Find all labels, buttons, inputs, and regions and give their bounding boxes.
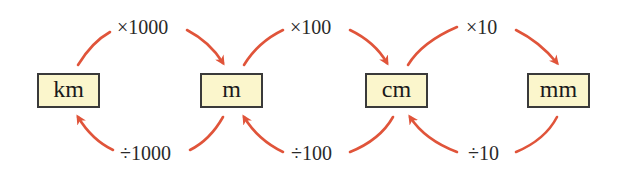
unit-label-km: km [53,77,84,101]
arrow-cm-to-m-head [244,117,283,152]
arrow-km-to-m [78,32,110,65]
arrow-km-to-m-head [187,30,223,63]
unit-conversion-diagram: km m cm mm ×1000 ×100 ×10 ÷1000 ÷100 ÷10 [0,0,624,180]
unit-label-mm: mm [540,77,577,101]
arrow-mm-to-cm [516,117,557,152]
unit-box-km: km [37,73,100,108]
arrow-cm-to-mm-head [516,30,557,63]
multiply-label-km-m: ×1000 [117,17,168,37]
arrow-m-to-km-head [78,117,113,150]
arrow-m-to-km [190,117,223,150]
divide-label-cm-m: ÷100 [291,143,332,163]
unit-box-mm: mm [527,73,590,108]
arrow-mm-to-cm-head [410,117,457,152]
unit-label-m: m [222,77,241,101]
arrow-m-to-cm-head [350,30,387,63]
arrow-cm-to-mm [408,27,457,65]
unit-label-cm: cm [382,77,411,101]
arrow-cm-to-m [350,117,393,152]
multiply-label-cm-mm: ×10 [466,17,497,37]
unit-box-cm: cm [365,73,428,108]
divide-label-mm-cm: ÷10 [468,143,499,163]
divide-label-m-km: ÷1000 [120,143,171,163]
unit-box-m: m [200,73,263,108]
multiply-label-m-cm: ×100 [290,17,331,37]
arrow-m-to-cm [244,30,283,65]
